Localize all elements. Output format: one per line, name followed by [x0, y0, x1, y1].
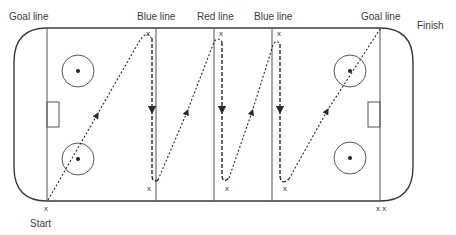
label-start: Start	[30, 218, 51, 230]
label-blue-line-left: Blue line	[137, 11, 175, 23]
marker-finish-corner: x x	[376, 204, 386, 213]
path-segment-7b	[327, 29, 380, 111]
marker-blue-left-top: x	[146, 29, 150, 38]
label-blue-line-right: Blue line	[254, 11, 292, 23]
path-segment-1	[48, 115, 97, 200]
faceoff-circle-left-top	[62, 55, 94, 87]
marker-start: x	[44, 204, 48, 213]
path-segment-5	[229, 112, 252, 178]
path-segment-6b	[280, 110, 289, 182]
path-segment-3	[158, 112, 187, 180]
label-red-line: Red line	[197, 11, 234, 23]
label-finish: Finish	[417, 20, 444, 32]
marker-blue-right-top: x	[277, 29, 281, 38]
path-segment-2b	[152, 110, 158, 181]
path-segment-3b	[187, 39, 222, 112]
marker-blue-left-bottom: x	[147, 184, 151, 193]
goal-crease-left	[47, 102, 59, 127]
rink-diagram	[0, 0, 456, 235]
marker-red-top: x	[219, 29, 223, 38]
path-segment-4b	[222, 110, 229, 181]
marker-red-bottom: x	[225, 184, 229, 193]
faceoff-circle-right-top	[334, 55, 366, 87]
path-segment-1b	[97, 34, 151, 115]
path-segment-5b	[252, 42, 280, 112]
label-goal-line-right: Goal line	[361, 11, 400, 23]
label-goal-line-left: Goal line	[9, 11, 48, 23]
marker-blue-right-bottom: x	[283, 184, 287, 193]
path-segment-7	[289, 111, 327, 179]
goal-crease-right	[368, 102, 380, 127]
faceoff-circle-right-bottom	[334, 142, 366, 174]
